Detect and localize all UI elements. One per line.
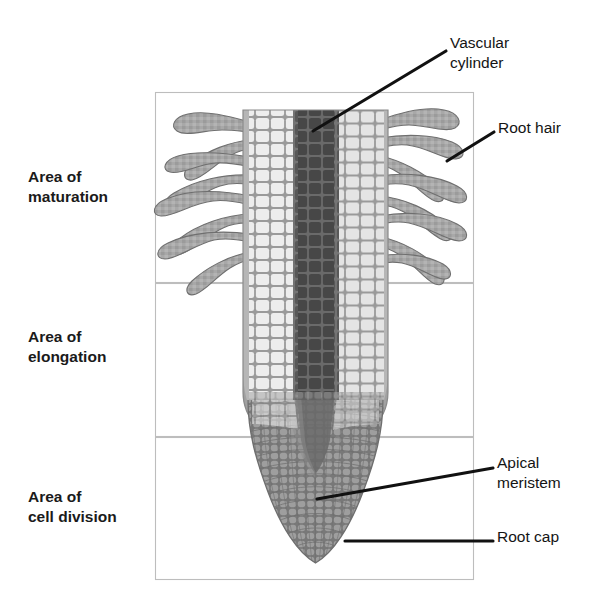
callout-label-apical-meristem: Apical meristem [497, 453, 561, 493]
figure-root-tip-zones: Area of maturation Area of elongation Ar… [0, 0, 609, 609]
callout-label-root-hair: Root hair [498, 118, 561, 138]
root-hair [187, 252, 251, 295]
root-hair [380, 254, 451, 279]
root-hair [380, 135, 463, 159]
zone-label-area-of-maturation: Area of maturation [28, 167, 108, 207]
root-hair [380, 109, 459, 130]
callout-label-vascular-cylinder: Vascular cylinder [450, 33, 509, 73]
root-hair [174, 113, 251, 134]
root-hair [380, 213, 467, 241]
root-tip [240, 395, 392, 575]
zone-label-area-of-cell-division: Area of cell division [28, 487, 117, 527]
root-hair [154, 191, 250, 216]
callout-label-root-cap: Root cap [497, 527, 559, 547]
zone-label-area-of-elongation: Area of elongation [28, 327, 106, 367]
